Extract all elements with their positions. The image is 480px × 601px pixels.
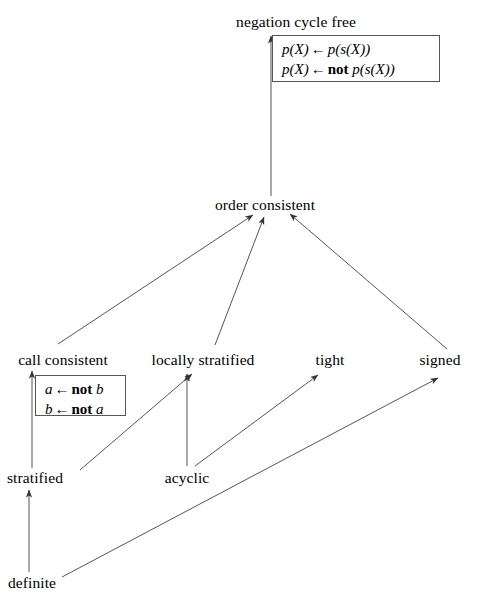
negation-keyword: not: [72, 381, 93, 397]
edge-acyclic-to-tight: [195, 375, 318, 466]
rule-line: p(X)←not p(s(X)): [282, 60, 430, 80]
node-stratified[interactable]: stratified: [7, 470, 63, 486]
edge-locally-stratified-to-order-consistent: [215, 217, 264, 345]
rule-box-negation-cycle-free: p(X)←p(s(X)) p(X)←not p(s(X)): [272, 35, 440, 82]
edge-layer: [0, 0, 480, 601]
node-negation-cycle-free[interactable]: negation cycle free: [236, 14, 356, 30]
rule-head: a: [45, 381, 53, 397]
node-call-consistent[interactable]: call consistent: [18, 352, 108, 368]
rule-line: b←not a: [45, 400, 116, 420]
rule-box-call-consistent: a←not b b←not a: [35, 375, 126, 416]
implication-arrow-icon: ←: [53, 381, 72, 397]
hierarchy-diagram: negation cycle free order consistent cal…: [0, 0, 480, 601]
node-tight[interactable]: tight: [316, 352, 345, 368]
rule-body: b: [96, 381, 104, 397]
negation-keyword: not: [72, 401, 93, 417]
edge-signed-to-order-consistent: [290, 214, 447, 349]
rule-line: p(X)←p(s(X)): [282, 40, 430, 60]
node-definite[interactable]: definite: [8, 575, 56, 591]
rule-line: a←not b: [45, 380, 116, 400]
implication-arrow-icon: ←: [309, 61, 328, 77]
rule-head: p(X): [282, 61, 309, 77]
node-locally-stratified[interactable]: locally stratified: [152, 352, 255, 368]
rule-head: p(X): [282, 41, 309, 57]
negation-keyword: not: [328, 61, 349, 77]
node-order-consistent[interactable]: order consistent: [215, 197, 315, 213]
node-acyclic[interactable]: acyclic: [165, 470, 210, 486]
implication-arrow-icon: ←: [53, 401, 72, 417]
rule-body: p(s(X)): [328, 41, 370, 57]
implication-arrow-icon: ←: [309, 41, 328, 57]
rule-head: b: [45, 401, 53, 417]
node-signed[interactable]: signed: [419, 352, 460, 368]
edge-call-consistent-to-order-consistent: [58, 215, 253, 344]
rule-body: a: [96, 401, 104, 417]
rule-body: p(s(X)): [352, 61, 394, 77]
